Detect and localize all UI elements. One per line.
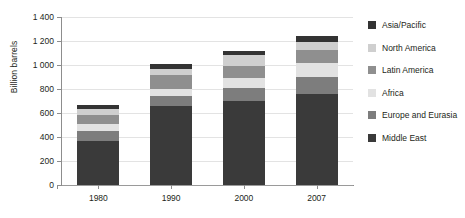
y-axis-tick-label: 0: [49, 180, 54, 190]
y-axis-tick: [57, 113, 61, 114]
legend-swatch-icon: [368, 134, 376, 142]
legend-swatch-icon: [368, 89, 376, 97]
bar-segment: [150, 96, 192, 106]
bar-segment: [150, 75, 192, 89]
y-axis-tick-label: 200: [40, 156, 54, 166]
bar-1980: [77, 105, 119, 185]
gridline: [62, 185, 353, 186]
x-axis-label: 1980: [58, 193, 138, 203]
y-axis-tick: [57, 137, 61, 138]
bar-1990: [150, 64, 192, 185]
y-axis-tick-label: 800: [40, 84, 54, 94]
legend: Asia/PacificNorth AmericaLatin AmericaAf…: [368, 14, 465, 149]
bar-segment: [223, 55, 265, 65]
y-axis-tick: [57, 161, 61, 162]
y-axis-tick-label: 400: [40, 132, 54, 142]
stacked-bar-chart: Billion barrels 02004006008001 0001 2001…: [0, 0, 465, 218]
legend-item-label: North America: [382, 44, 436, 53]
legend-item-label: Middle East: [382, 134, 426, 143]
y-axis-line: [61, 17, 62, 185]
x-axis-origin-tick: [57, 185, 58, 189]
legend-swatch-icon: [368, 111, 376, 119]
bar-2000: [223, 51, 265, 185]
bar-segment: [77, 115, 119, 124]
legend-item-label: Asia/Pacific: [382, 21, 426, 30]
y-axis-tick-label: 1 400: [33, 12, 54, 22]
bar-segment: [150, 89, 192, 96]
x-axis-tick: [317, 185, 318, 189]
bar-segment: [150, 106, 192, 185]
gridline: [62, 17, 353, 18]
legend-item[interactable]: Asia/Pacific: [368, 14, 465, 37]
y-axis-tick-label: 1 200: [33, 36, 54, 46]
bar-segment: [77, 124, 119, 131]
y-axis-tick-label: 1 000: [33, 60, 54, 70]
bar-segment: [223, 101, 265, 185]
legend-item-label: Latin America: [382, 66, 434, 75]
x-axis-label: 1990: [131, 193, 211, 203]
x-axis-label: 2000: [204, 193, 284, 203]
bar-segment: [77, 131, 119, 141]
bar-segment: [296, 42, 338, 50]
bar-segment: [296, 94, 338, 185]
plot-area: 02004006008001 0001 2001 400 19801990200…: [62, 17, 353, 185]
bar-segment: [296, 77, 338, 94]
y-axis-tick: [57, 65, 61, 66]
legend-item[interactable]: Europe and Eurasia: [368, 104, 465, 127]
y-axis-tick: [57, 41, 61, 42]
bar-2007: [296, 36, 338, 185]
legend-item[interactable]: Latin America: [368, 59, 465, 82]
legend-item-label: Africa: [382, 89, 404, 98]
legend-swatch-icon: [368, 21, 376, 29]
legend-item[interactable]: Middle East: [368, 127, 465, 150]
legend-item[interactable]: Africa: [368, 82, 465, 105]
x-axis-tick: [98, 185, 99, 189]
x-axis-tick: [244, 185, 245, 189]
legend-item[interactable]: North America: [368, 37, 465, 60]
bar-segment: [77, 141, 119, 185]
bar-segment: [296, 50, 338, 63]
x-axis-label: 2007: [277, 193, 357, 203]
legend-swatch-icon: [368, 44, 376, 52]
x-axis-tick: [171, 185, 172, 189]
y-axis-title: Billion barrels: [9, 19, 19, 115]
bar-segment: [223, 78, 265, 88]
y-axis-tick: [57, 89, 61, 90]
bar-segment: [223, 66, 265, 78]
bar-segment: [296, 63, 338, 77]
y-axis-tick: [57, 17, 61, 18]
legend-swatch-icon: [368, 66, 376, 74]
y-axis-tick-label: 600: [40, 108, 54, 118]
legend-item-label: Europe and Eurasia: [382, 111, 457, 120]
bar-segment: [223, 88, 265, 101]
